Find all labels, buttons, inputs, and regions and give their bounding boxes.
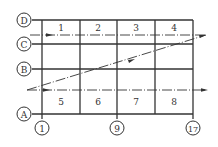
svg-text:C: C (21, 40, 28, 50)
bay-number: 8 (171, 97, 177, 107)
axis-bubble-1: 1 (35, 121, 49, 135)
axis-bubble-D: D (17, 13, 31, 27)
arrow-icon (43, 88, 50, 91)
svg-text:9: 9 (114, 124, 120, 134)
bay-number: 2 (95, 23, 101, 33)
svg-text:17: 17 (188, 125, 198, 134)
svg-text:A: A (20, 110, 28, 120)
bay-number: 4 (171, 23, 177, 33)
arrow-icon (46, 33, 53, 36)
axis-bubble-B: B (17, 62, 31, 76)
axis-bubble-A: A (17, 107, 31, 121)
arrow-icon (201, 88, 208, 91)
bay-number: 3 (133, 23, 139, 33)
axis-bubble-9: 9 (110, 121, 124, 135)
bay-number: 1 (58, 23, 64, 33)
axis-bubble-C: C (17, 37, 31, 51)
arrowheads (43, 33, 208, 91)
svg-text:1: 1 (39, 124, 45, 134)
bay-number: 6 (95, 97, 101, 107)
svg-text:B: B (21, 65, 28, 75)
grid-plan-diagram: D C B A 1 9 17 1 2 3 (0, 0, 218, 147)
bay-number: 7 (133, 97, 139, 107)
arrow-icon (128, 59, 135, 63)
svg-text:D: D (20, 16, 27, 26)
row-grid-lines (32, 20, 193, 114)
arrow-icon (199, 35, 206, 38)
row-axis-labels: D C B A (17, 13, 31, 121)
column-axis-labels: 1 9 17 (35, 121, 200, 135)
axis-bubble-17: 17 (186, 121, 200, 135)
bay-number: 5 (58, 97, 64, 107)
